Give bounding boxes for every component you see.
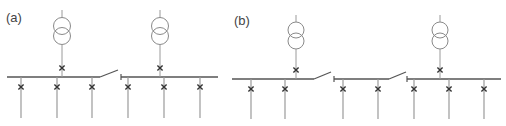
transformer-winding-icon (54, 28, 71, 45)
transformer-winding-icon (152, 28, 169, 45)
transformer-winding-icon (432, 33, 448, 49)
bus-tie-switch (314, 72, 331, 79)
transformer-winding-icon (288, 33, 304, 49)
transformer-winding-icon (54, 18, 71, 35)
bus-tie-switch (389, 72, 406, 79)
panel-label-a: (a) (6, 10, 22, 25)
bus-tie-switch (100, 70, 118, 77)
diagram-canvas (0, 0, 506, 126)
transformer-winding-icon (152, 18, 169, 35)
panel-label-b: (b) (234, 13, 250, 28)
